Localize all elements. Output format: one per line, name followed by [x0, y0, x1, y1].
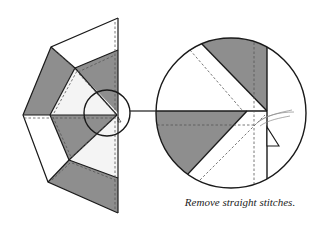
quilt-diagram [0, 0, 320, 227]
magnified-detail [150, 30, 306, 190]
figure-caption: Remove straight stitches. [170, 196, 310, 208]
left-block-half [23, 18, 130, 213]
